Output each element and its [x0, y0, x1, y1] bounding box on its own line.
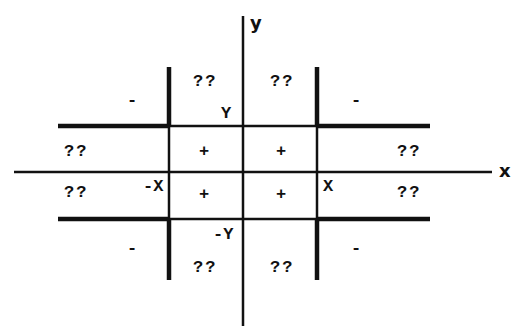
bottom-left-corner-sign: - [127, 240, 137, 257]
center-upper-left-sign: + [199, 143, 209, 160]
bottom-band-right-unknown: ?? [270, 259, 294, 276]
diagram-lines [0, 0, 519, 336]
top-left-corner-sign: - [127, 92, 137, 109]
bottom-right-corner-sign: - [351, 240, 361, 257]
center-lower-right-sign: + [276, 186, 286, 203]
center-lower-left-sign: + [199, 186, 209, 203]
right-band-upper-unknown: ?? [397, 143, 421, 160]
neg-x-bound-label: -X [143, 178, 163, 195]
neg-y-bound-label: -Y [213, 226, 233, 243]
pos-x-bound-label: X [323, 178, 333, 195]
right-band-lower-unknown: ?? [397, 184, 421, 201]
x-axis-label: x [499, 162, 511, 180]
left-band-lower-unknown: ?? [64, 184, 88, 201]
center-upper-right-sign: + [276, 143, 286, 160]
bottom-band-left-unknown: ?? [193, 259, 217, 276]
top-right-corner-sign: - [351, 92, 361, 109]
left-band-upper-unknown: ?? [64, 143, 88, 160]
top-band-right-unknown: ?? [270, 73, 294, 90]
y-axis-label: y [250, 14, 262, 32]
top-band-left-unknown: ?? [193, 73, 217, 90]
pos-y-bound-label: Y [221, 105, 231, 122]
